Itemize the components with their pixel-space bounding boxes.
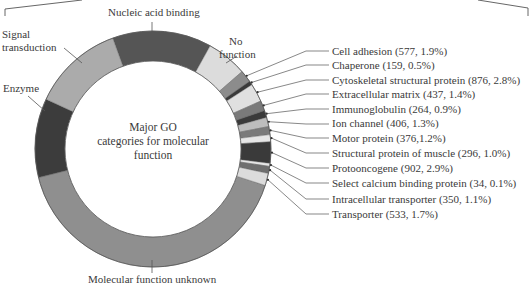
center-title-line3: function: [86, 148, 220, 162]
center-title: Major GO categories for molecular functi…: [86, 120, 220, 162]
callout-line: [272, 153, 329, 168]
label-no-function-1: No: [229, 35, 242, 48]
label-select-calcium-binding-protein: Select calcium binding protein (34, 0.1%…: [332, 177, 516, 190]
leader-enzyme: [28, 96, 45, 111]
label-enzyme: Enzyme: [3, 82, 39, 95]
callout-line: [269, 122, 329, 124]
callout-line: [271, 130, 329, 138]
label-signal-transduction-1: Signal: [2, 28, 30, 41]
label-signal-transduction-2: transduction: [2, 41, 56, 54]
donut-chart: [0, 0, 529, 287]
arrow-tip-icon: [266, 113, 268, 115]
top-bracket-left: [5, 0, 82, 16]
go-molecular-function-figure: Nucleic acid binding Signal transduction…: [0, 0, 529, 287]
callout-line: [264, 94, 329, 105]
label-structural-protein-of-muscle: Structural protein of muscle (296, 1.0%): [332, 147, 510, 160]
callout-line: [268, 180, 329, 214]
arrow-tip-icon: [267, 179, 269, 181]
label-intracellular-transporter: Intracellular transporter (350, 1.1%): [332, 193, 491, 206]
callout-line: [247, 51, 329, 76]
label-cell-adhesion: Cell adhesion (577, 1.9%): [332, 45, 447, 58]
label-chaperone: Chaperone (159, 0.5%): [332, 59, 435, 72]
label-immunoglobulin: Immunoglobulin (264, 0.9%): [332, 103, 461, 116]
label-nucleic-acid-binding: Nucleic acid binding: [108, 6, 200, 19]
label-cytoskeletal-structural-protein: Cytoskeletal structural protein (876, 2.…: [332, 74, 520, 87]
callout-line: [270, 170, 329, 199]
center-title-line2: categories for molecular: [86, 134, 220, 148]
label-motor-protein: Motor protein (376,1.2%): [332, 132, 446, 145]
label-extracellular-matrix: Extracellular matrix (437, 1.4%): [332, 88, 475, 101]
arrow-tip-icon: [270, 137, 272, 139]
arrow-tip-icon: [269, 129, 271, 131]
label-protooncogene: Protooncogene (902, 2.9%): [332, 162, 453, 175]
center-title-line1: Major GO: [86, 120, 220, 134]
arrow-tip-icon: [263, 104, 265, 106]
top-bracket-right: [478, 0, 528, 16]
label-ion-channel: Ion channel (406, 1.3%): [332, 117, 439, 130]
label-molecular-function-unknown: Molecular function unknown: [88, 273, 216, 286]
arrow-tip-icon: [251, 81, 253, 83]
arrow-tip-icon: [270, 164, 272, 166]
arrow-tip-icon: [271, 152, 273, 154]
callout-line: [258, 80, 329, 92]
callout-line: [272, 138, 329, 153]
leader-signal: [64, 48, 82, 63]
arrow-tip-icon: [256, 91, 258, 93]
label-transporter: Transporter (533, 1.7%): [332, 208, 438, 221]
callout-line: [267, 109, 329, 114]
arrow-tip-icon: [268, 121, 270, 123]
arrow-tip-icon: [246, 75, 248, 77]
label-no-function-2: function: [219, 48, 256, 61]
arrow-tip-icon: [269, 169, 271, 171]
